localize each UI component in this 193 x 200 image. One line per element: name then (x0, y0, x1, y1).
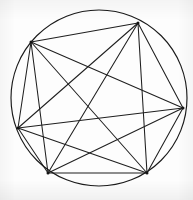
chord-bd (138, 23, 147, 173)
vertex-right (182, 107, 185, 110)
chord-ae (31, 42, 48, 173)
vertex-top-left (30, 41, 33, 44)
chord-cf (18, 108, 183, 128)
chord-af (18, 42, 31, 128)
chord-be (48, 23, 138, 173)
chord-ab (31, 23, 138, 42)
vertex-bottom-left (47, 172, 50, 175)
vertex-bottom-right (146, 172, 149, 175)
diagram-canvas (0, 0, 193, 200)
vertex-top (137, 22, 140, 25)
geometry-figure (0, 0, 193, 200)
chord-cd (147, 108, 183, 173)
chord-bf (18, 23, 138, 128)
chord-ce (48, 108, 183, 173)
chord-layer (18, 23, 183, 173)
vertex-left (17, 127, 20, 130)
